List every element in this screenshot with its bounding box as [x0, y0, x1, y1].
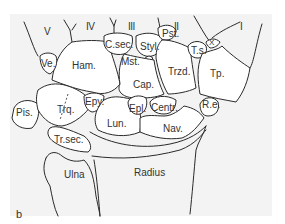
parastyloid-label: Pst. [162, 29, 179, 39]
ulna-label: Ulna [64, 170, 85, 180]
x-label: X [209, 39, 214, 47]
triangulare-secundarium-label: Tr.sec. [54, 135, 84, 145]
metacarpal-iv-label: IV [86, 22, 94, 32]
centrale-label: Centr. [151, 103, 178, 113]
radius-label: Radius [134, 168, 165, 178]
metacarpal-i-label: I [240, 22, 242, 32]
metacarpal-iii-label: III [128, 22, 135, 32]
lunate-label: Lun. [107, 119, 126, 129]
navicular-label: Nav. [163, 124, 183, 134]
hamate-label: Ham. [72, 61, 96, 71]
radiale-externum-label: R.e. [202, 100, 220, 110]
styloideum-label: Styl. [140, 42, 159, 52]
mesostyloid-label: Mst. [121, 57, 140, 67]
capitatum-secundarium-label: C.sec. [105, 40, 133, 50]
panel-label: b [16, 209, 22, 220]
vesalianum-label: Ve. [41, 59, 55, 69]
trapezoid-label: Trzd. [168, 67, 190, 77]
triquetrum-label: Trq. [57, 105, 74, 115]
metacarpal-v-label: V [44, 27, 50, 37]
pisiform-label: Pis. [16, 108, 33, 118]
trapezium-secundarium-label: T.s. [191, 46, 207, 56]
capitate-label: Cap. [133, 80, 154, 90]
wrist-bones-diagram: V IV III II I Ham. Ve. C.sec. Styl. Pst.… [0, 0, 285, 224]
trapezium-label: Tp. [210, 69, 224, 79]
epipyramis-label: Epy. [85, 97, 104, 107]
epilunatum-label: Epl. [129, 104, 146, 114]
